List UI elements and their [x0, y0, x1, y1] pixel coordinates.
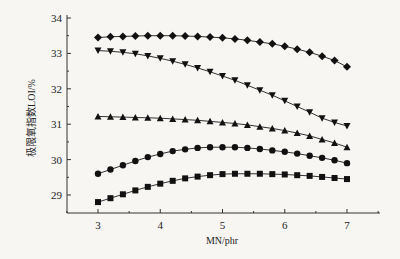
diamond-marker	[219, 34, 227, 42]
line-chart: 29303132333434567 MN/phr 极限氧指数LOI/%	[0, 0, 400, 259]
diamond-marker	[94, 33, 102, 41]
y-tick-label: 32	[51, 83, 62, 95]
diamond-marker	[119, 32, 127, 40]
square-marker	[132, 187, 138, 193]
y-tick-label: 31	[51, 118, 62, 130]
diamond-marker	[131, 32, 139, 40]
circle-marker	[319, 155, 325, 161]
diamond-marker	[256, 38, 264, 46]
square-marker	[282, 171, 288, 177]
circle-marker	[182, 146, 188, 152]
square-marker	[269, 171, 275, 177]
diamond-marker	[331, 56, 339, 64]
diamond-marker	[106, 33, 114, 41]
circle-marker	[132, 158, 138, 164]
diamond-marker	[144, 32, 152, 40]
triangle-down-marker	[319, 115, 326, 122]
y-tick-label: 33	[51, 47, 63, 59]
diamond-marker	[169, 32, 177, 40]
diamond-marker	[231, 35, 239, 43]
triangle-up-marker	[344, 144, 351, 151]
diamond-marker	[306, 48, 314, 56]
square-marker	[182, 175, 188, 181]
diamond-marker	[156, 32, 164, 40]
circle-marker	[257, 146, 263, 152]
triangle-down-marker	[231, 77, 238, 84]
triangle-down-marker	[269, 92, 276, 99]
square-marker	[170, 178, 176, 184]
square-marker	[257, 171, 263, 177]
diamond-marker	[268, 40, 276, 48]
square-marker	[95, 199, 101, 205]
circle-marker	[331, 157, 337, 163]
triangle-down-marker	[244, 82, 251, 89]
square-marker	[107, 195, 113, 201]
triangle-down-marker	[281, 98, 288, 105]
circle-marker	[306, 153, 312, 159]
x-tick-label: 4	[158, 219, 164, 231]
square-marker	[157, 181, 163, 187]
x-tick-label: 5	[220, 219, 226, 231]
circle-marker	[207, 144, 213, 150]
x-tick-label: 7	[344, 219, 350, 231]
square-marker	[244, 171, 250, 177]
y-tick-label: 30	[51, 154, 63, 166]
circle-marker	[120, 162, 126, 168]
triangle-down-marker	[207, 69, 214, 76]
x-tick-label: 3	[95, 219, 101, 231]
square-marker	[220, 171, 226, 177]
square-marker	[120, 191, 126, 197]
diamond-marker	[243, 36, 251, 44]
series-group	[94, 32, 351, 205]
square-marker	[145, 184, 151, 190]
square-marker	[195, 174, 201, 180]
circle-marker	[269, 147, 275, 153]
circle-marker	[219, 144, 225, 150]
diamond-marker	[318, 52, 326, 60]
square-marker	[307, 173, 313, 179]
diamond-marker	[206, 33, 214, 41]
circle-marker	[170, 148, 176, 154]
triangle-down-marker	[219, 73, 226, 80]
circle-marker	[232, 144, 238, 150]
square-marker	[294, 172, 300, 178]
diamond-marker	[293, 45, 301, 53]
square-marker	[319, 174, 325, 180]
y-tick-label: 34	[51, 12, 63, 24]
circle-marker	[244, 145, 250, 151]
triangle-down-marker	[256, 87, 263, 94]
diamond-marker	[194, 32, 202, 40]
x-axis-label: MN/phr	[206, 235, 239, 246]
circle-marker	[194, 145, 200, 151]
triangle-down-marker	[294, 104, 301, 111]
square-marker	[332, 175, 338, 181]
series-square	[95, 171, 350, 205]
circle-marker	[344, 160, 350, 166]
triangle-down-marker	[344, 123, 351, 130]
circle-marker	[157, 151, 163, 157]
y-axis-label: 极限氧指数LOI/%	[25, 79, 37, 157]
triangle-down-marker	[306, 109, 313, 116]
circle-marker	[282, 149, 288, 155]
diamond-marker	[281, 42, 289, 50]
circle-marker	[145, 154, 151, 160]
diamond-marker	[343, 63, 351, 71]
circle-marker	[95, 171, 101, 177]
x-tick-label: 6	[282, 219, 288, 231]
circle-marker	[294, 150, 300, 156]
y-tick-label: 29	[51, 189, 63, 201]
circle-marker	[107, 166, 113, 172]
square-marker	[232, 171, 238, 177]
square-marker	[207, 172, 213, 178]
diamond-marker	[181, 32, 189, 40]
square-marker	[344, 176, 350, 182]
